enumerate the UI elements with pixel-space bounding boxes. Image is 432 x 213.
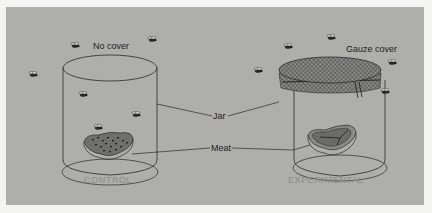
fly-icon xyxy=(132,112,140,117)
fly-icon xyxy=(381,89,389,94)
fly-icon xyxy=(284,44,292,49)
control-jar-opening xyxy=(63,55,157,81)
fly-icon xyxy=(388,60,396,65)
meat-callout-line-left xyxy=(132,148,210,154)
fly-icon xyxy=(71,43,79,48)
jar-callout-line-right xyxy=(228,102,279,116)
control-meat xyxy=(84,132,133,159)
experimental-caption: EXPERIMENTAL xyxy=(288,176,364,185)
control-jar xyxy=(62,55,158,185)
meat-callout-line-right xyxy=(232,148,293,150)
fly-icon xyxy=(327,35,335,40)
fly-icon xyxy=(79,92,87,97)
control-caption: CONTROL xyxy=(84,176,132,185)
experimental-jar xyxy=(279,57,387,181)
fly-icon xyxy=(148,37,156,42)
experimental-meat xyxy=(308,125,356,155)
fly-icon xyxy=(29,72,37,77)
jar-callout-label: Jar xyxy=(213,112,226,121)
gauze-cover xyxy=(279,57,381,83)
meat-callout-line-end xyxy=(293,145,310,150)
gauze-cover-label: Gauze cover xyxy=(346,45,397,54)
fly-icon xyxy=(94,125,102,130)
meat-callout-label: Meat xyxy=(211,144,231,153)
fly-icon xyxy=(254,68,262,73)
redi-experiment-diagram xyxy=(0,0,432,213)
no-cover-label: No cover xyxy=(93,42,129,51)
jar-callout-line-left xyxy=(157,104,212,116)
